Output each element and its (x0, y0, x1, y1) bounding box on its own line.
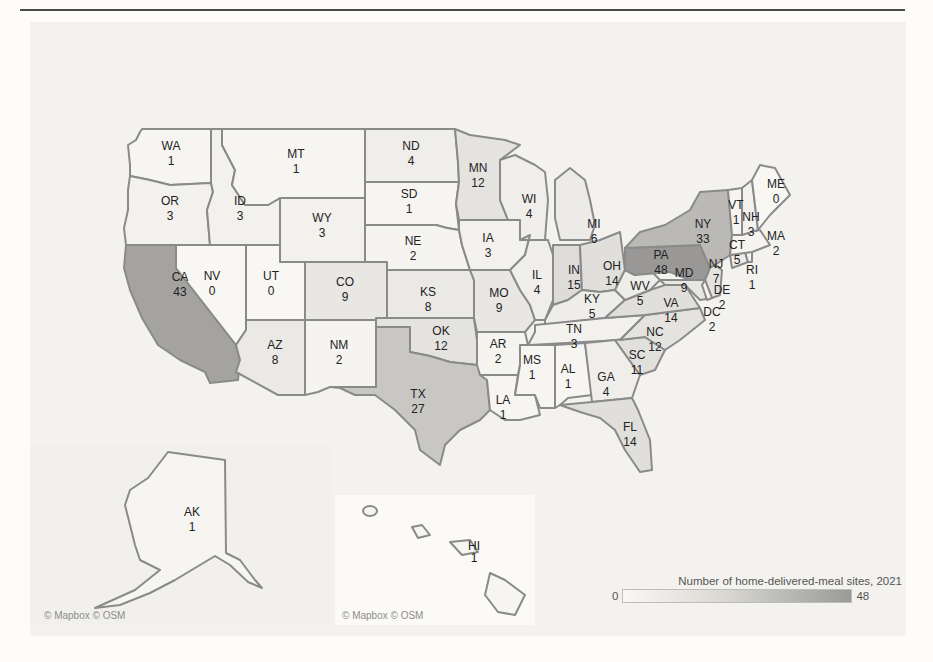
label-ms: MS1 (523, 353, 541, 383)
label-ma: MA2 (767, 229, 785, 259)
label-id: ID3 (234, 194, 246, 224)
label-al: AL1 (561, 362, 576, 392)
label-ca: CA43 (172, 270, 189, 300)
state-ak[interactable] (95, 452, 262, 608)
label-dc: DC2 (703, 305, 720, 335)
label-hi: HI1 (468, 540, 480, 564)
label-ia: IA3 (482, 231, 493, 261)
label-wv: WV5 (630, 279, 649, 309)
label-az: AZ8 (267, 338, 282, 368)
label-oh: OH14 (603, 259, 621, 289)
label-ut: UT0 (263, 269, 279, 299)
label-ak: AK1 (184, 505, 200, 535)
label-ne: NE2 (405, 234, 422, 264)
label-nd: ND4 (402, 139, 419, 169)
label-in: IN15 (567, 263, 580, 293)
label-sc: SC11 (629, 348, 646, 378)
state-hi-kauai[interactable] (363, 506, 377, 516)
label-fl: FL14 (623, 420, 637, 450)
map-credit-inset[interactable]: © Mapbox © OSM (342, 610, 423, 621)
label-mi: MI6 (587, 217, 600, 247)
legend-min: 0 (612, 590, 618, 602)
label-me: ME0 (767, 177, 785, 207)
label-nv: NV0 (204, 269, 221, 299)
label-tx: TX27 (410, 387, 425, 417)
label-mn: MN12 (469, 161, 488, 191)
label-ct: CT5 (729, 238, 745, 268)
label-pa: PA48 (653, 248, 668, 278)
state-hi-big[interactable] (485, 573, 525, 615)
label-tn: TN3 (566, 322, 582, 352)
label-ky: KY5 (584, 292, 600, 322)
label-nc: NC12 (646, 325, 663, 355)
choropleth-map[interactable] (0, 0, 933, 662)
legend-max: 48 (856, 590, 869, 602)
label-va: VA14 (663, 296, 678, 326)
label-sd: SD1 (401, 187, 418, 217)
label-ri: RI1 (746, 263, 758, 293)
label-ny: NY33 (695, 217, 712, 247)
label-ar: AR2 (490, 337, 507, 367)
label-mo: MO9 (489, 286, 508, 316)
label-nh: NH3 (742, 210, 759, 240)
legend-title: Number of home-delivered-meal sites, 202… (612, 575, 902, 587)
label-wi: WI4 (522, 192, 537, 222)
label-mt: MT1 (287, 147, 304, 177)
label-ga: GA4 (597, 370, 614, 400)
state-hi-oahu[interactable] (412, 525, 430, 538)
label-la: LA1 (496, 393, 511, 423)
label-wy: WY3 (312, 211, 331, 241)
label-il: IL4 (532, 268, 542, 298)
label-ok: OK12 (432, 324, 449, 354)
legend: Number of home-delivered-meal sites, 202… (612, 575, 902, 603)
label-or: OR3 (161, 194, 179, 224)
label-co: CO9 (336, 275, 354, 305)
label-nm: NM2 (330, 338, 349, 368)
map-credit-left[interactable]: © Mapbox © OSM (44, 610, 125, 621)
label-wa: WA1 (162, 139, 181, 169)
label-md: MD9 (675, 266, 694, 296)
label-ks: KS8 (420, 285, 436, 315)
state-fl[interactable] (560, 398, 652, 472)
legend-gradient-bar (622, 589, 852, 603)
